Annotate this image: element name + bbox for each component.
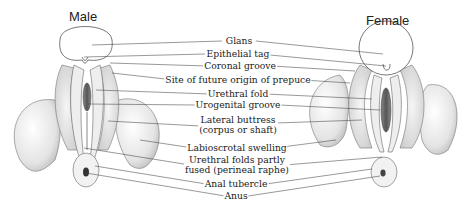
female-title: Female (366, 13, 409, 28)
label-anal-tubercle: Anal tubercle (204, 179, 269, 189)
label-anus: Anus (223, 191, 248, 201)
diagram: Male Female Glans Epithelial tag Coronal… (0, 0, 467, 210)
label-coronal-groove: Coronal groove (203, 61, 277, 71)
label-urethral-folds-partly-fused: Urethral folds partly fused (perineal ra… (184, 155, 290, 175)
male-title: Male (69, 9, 97, 24)
label-urethral-fold: Urethral fold (207, 89, 270, 99)
label-lateral-buttress-line2: (corpus or shaft) (199, 124, 277, 135)
male-figure (14, 27, 159, 188)
label-epithelial-tag: Epithelial tag (206, 49, 271, 59)
label-urogenital-groove: Urogenital groove (195, 100, 282, 110)
label-urethral-folds-line2: fused (perineal raphe) (185, 164, 289, 175)
female-figure (310, 21, 457, 187)
label-lateral-buttress: Lateral buttress (corpus or shaft) (198, 115, 278, 135)
label-site-of-future-origin-of-prepuce: Site of future origin of prepuce (164, 75, 311, 85)
label-glans: Glans (225, 36, 253, 46)
label-labioscrotal-swelling: Labioscrotal swelling (186, 143, 287, 153)
